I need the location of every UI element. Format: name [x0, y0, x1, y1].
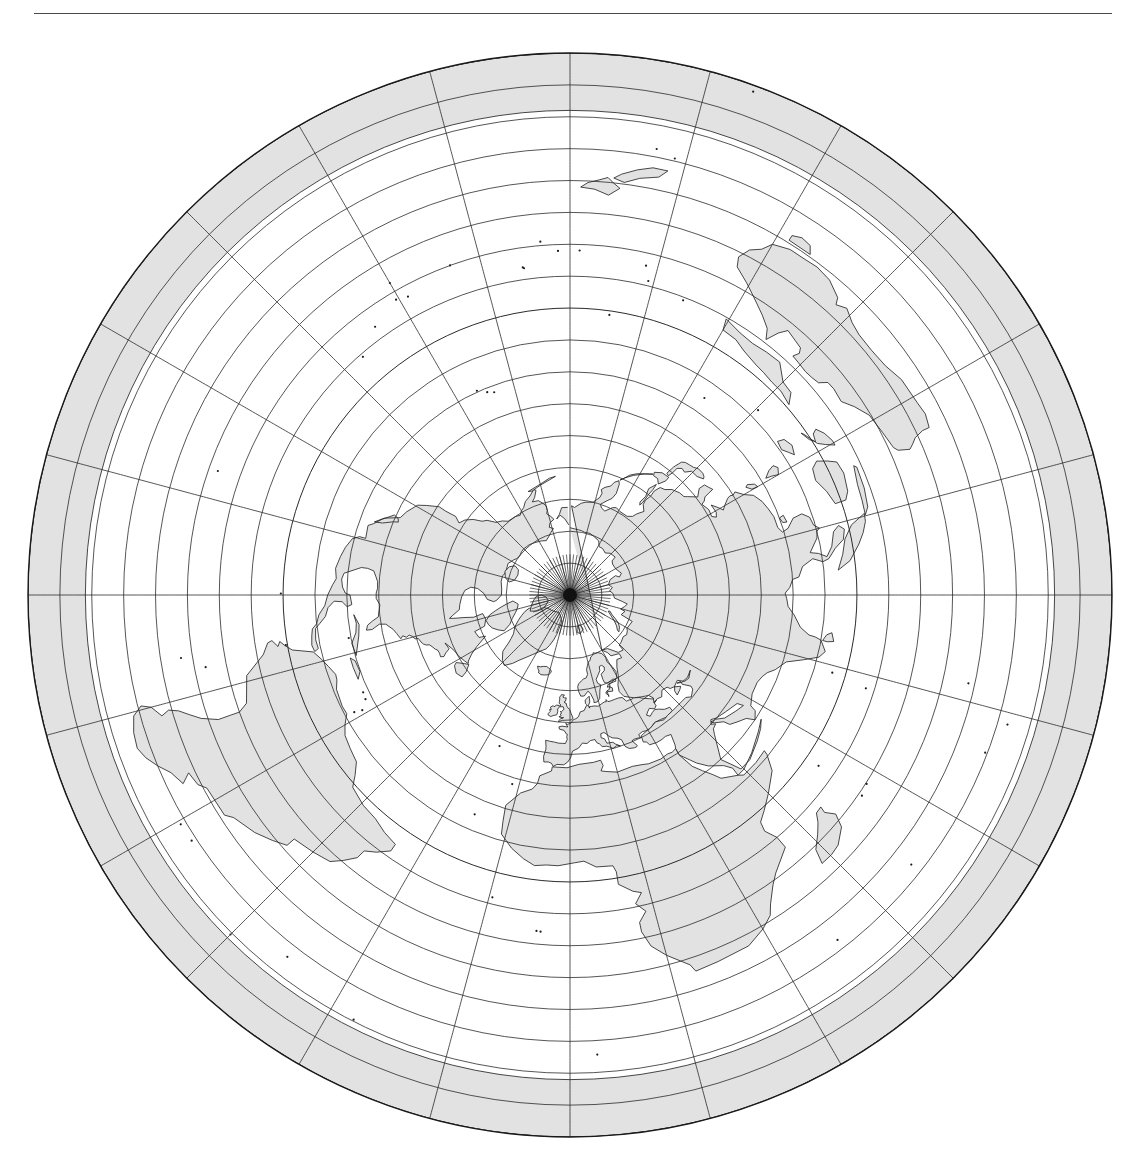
header-rule: [34, 13, 1112, 14]
polar-map-svg: [0, 18, 1146, 1176]
map-figure-plate: [0, 18, 1146, 1176]
page-canvas: [0, 0, 1146, 1176]
running-head-strip: [0, 0, 1146, 13]
running-head-text: [1030, 0, 1112, 7]
north-pole-marker: [563, 588, 577, 602]
